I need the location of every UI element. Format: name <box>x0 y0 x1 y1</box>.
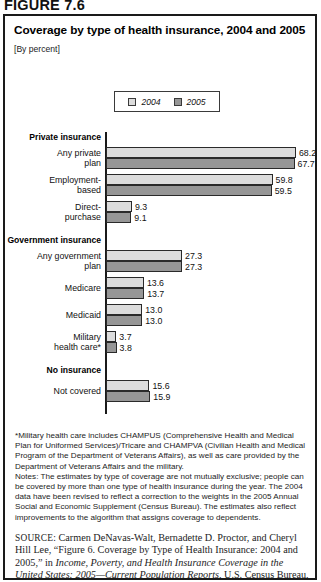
bar-value-label: 13.0 <box>145 316 162 326</box>
bar-2004 <box>106 174 273 185</box>
legend-item-2004: 2004 <box>128 97 160 107</box>
category-label: Medicare <box>5 283 101 293</box>
source-text-tail: , U.S. Census Bureau, <box>219 569 309 580</box>
bar-2005 <box>106 315 142 326</box>
group-heading: Government insurance <box>5 235 101 245</box>
bar-value-label: 13.7 <box>147 289 164 299</box>
bar-2005 <box>106 158 295 169</box>
bar-value-label: 59.8 <box>276 175 293 185</box>
figure-frame: Coverage by type of health insurance, 20… <box>3 14 317 580</box>
category-label: Medicaid <box>5 310 101 320</box>
bar-2004 <box>106 304 142 315</box>
chart-title: Coverage by type of health insurance, 20… <box>14 23 310 37</box>
bar-value-label: 27.3 <box>185 251 202 261</box>
chart-legend: 2004 2005 <box>114 91 220 112</box>
bar-value-label: 59.5 <box>275 186 292 196</box>
bar-2005 <box>106 185 272 196</box>
bar-2005 <box>106 212 131 223</box>
group-heading: Private insurance <box>5 132 101 142</box>
source-prefix: SOURCE: <box>15 533 56 543</box>
bar-2004 <box>106 250 182 261</box>
bar-value-label: 9.1 <box>134 213 146 223</box>
chart-footnote: *Military health care includes CHAMPUS (… <box>15 431 311 472</box>
chart-notes: *Military health care includes CHAMPUS (… <box>15 431 311 523</box>
chart-general-notes: Notes: The estimates by type of coverage… <box>15 472 311 523</box>
bar-value-label: 13.0 <box>145 305 162 315</box>
bar-value-label: 3.8 <box>120 343 132 353</box>
category-label: Employment- based <box>5 175 101 195</box>
bar-chart-plot-area: Private insuranceAny private plan68.267.… <box>5 120 317 420</box>
bar-2005 <box>106 288 144 299</box>
category-label: Not covered <box>5 386 101 396</box>
legend-label-2005: 2005 <box>187 97 206 107</box>
category-label: Military health care* <box>5 332 101 352</box>
figure-header: Coverage by type of health insurance, 20… <box>14 23 310 61</box>
bar-value-label: 9.3 <box>135 202 147 212</box>
bar-2004 <box>106 380 149 391</box>
bar-2004 <box>106 201 132 212</box>
figure-number-label: FIGURE 7.6 <box>4 0 85 13</box>
bar-value-label: 68.2 <box>299 148 316 158</box>
legend-label-2004: 2004 <box>141 97 160 107</box>
bar-value-label: 3.7 <box>119 332 131 342</box>
bar-value-label: 15.6 <box>152 381 169 391</box>
chart-source: SOURCE: Carmen DeNavas-Walt, Bernadette … <box>15 532 311 580</box>
bar-value-label: 13.6 <box>147 278 164 288</box>
category-label: Direct- purchase <box>5 202 101 222</box>
bar-value-label: 27.3 <box>185 262 202 272</box>
bar-value-label: 67.7 <box>298 159 315 169</box>
chart-subtitle: [By percent] <box>14 44 310 54</box>
bar-2005 <box>106 342 117 353</box>
bar-2004 <box>106 277 144 288</box>
bar-2004 <box>106 331 116 342</box>
legend-item-2005: 2005 <box>174 97 206 107</box>
bar-2004 <box>106 147 296 158</box>
legend-swatch-dark-icon <box>174 98 182 106</box>
bar-2005 <box>106 261 182 272</box>
category-label: Any government plan <box>5 251 101 271</box>
bar-2005 <box>106 391 150 402</box>
group-heading: No insurance <box>5 365 101 375</box>
bar-value-label: 15.9 <box>153 392 170 402</box>
legend-swatch-light-icon <box>128 98 136 106</box>
category-label: Any private plan <box>5 148 101 168</box>
